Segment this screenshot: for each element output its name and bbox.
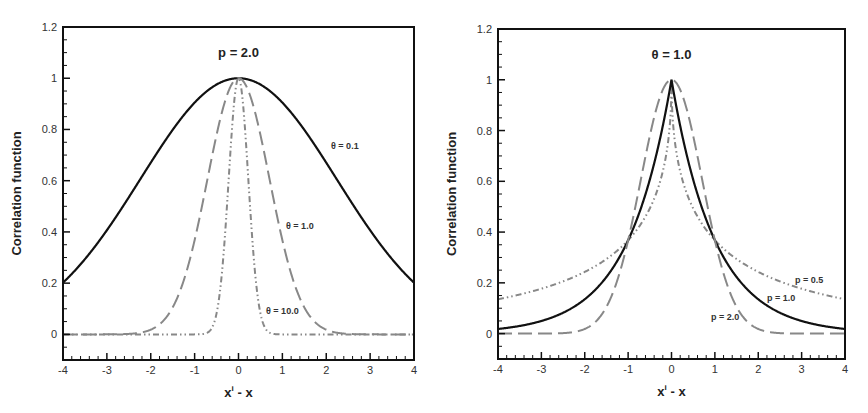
x-tick-label: 2 [755, 363, 761, 375]
plot-frame [63, 27, 414, 360]
x-tick-label: -2 [146, 364, 156, 376]
curve-label: p = 1.0 [767, 293, 795, 303]
x-tick-label: -1 [623, 363, 633, 375]
curve--10.0 [63, 78, 414, 334]
y-tick-label: 0.2 [42, 277, 57, 289]
curve-label: p = 2.0 [711, 312, 739, 322]
y-tick-label: 0.4 [477, 226, 492, 238]
y-tick-label: 1 [486, 74, 492, 86]
x-tick-label: -2 [580, 363, 590, 375]
x-axis-label: xi - x [224, 384, 253, 400]
y-tick-label: 0.6 [477, 175, 492, 187]
x-tick-label: -4 [493, 363, 503, 375]
x-tick-label: -3 [102, 364, 112, 376]
curve--0.1 [63, 78, 414, 282]
y-tick-label: 0.8 [477, 125, 492, 137]
x-tick-label: 2 [323, 364, 329, 376]
curves [63, 78, 414, 334]
y-tick-label: 0.2 [477, 277, 492, 289]
y-axis-label: Correlation function [9, 131, 24, 255]
right-panel-theta1: -4-3-2-10123400.20.40.60.811.2 θ = 1.0 C… [444, 23, 848, 399]
curve-label: θ = 0.1 [331, 141, 359, 151]
y-tick-label: 1.2 [42, 21, 57, 33]
y-tick-label: 0.8 [42, 123, 57, 135]
y-tick-label: 0.6 [42, 175, 57, 187]
axis-ticks: -4-3-2-10123400.20.40.60.811.2 [477, 23, 848, 375]
panel-title: θ = 1.0 [652, 47, 692, 62]
curve-label: θ = 10.0 [266, 306, 299, 316]
y-tick-label: 0 [486, 328, 492, 340]
curve-label: θ = 1.0 [286, 221, 314, 231]
x-tick-label: 0 [235, 364, 241, 376]
y-tick-label: 0 [51, 328, 57, 340]
curve--1.0 [63, 78, 414, 334]
x-tick-label: 3 [367, 364, 373, 376]
x-tick-label: -3 [536, 363, 546, 375]
x-tick-label: 0 [668, 363, 674, 375]
y-tick-label: 1 [51, 72, 57, 84]
x-tick-label: 1 [712, 363, 718, 375]
y-tick-label: 0.4 [42, 226, 57, 238]
x-tick-label: 4 [842, 363, 848, 375]
x-tick-label: -1 [190, 364, 200, 376]
x-tick-label: -4 [58, 364, 68, 376]
y-axis-label: Correlation function [444, 132, 459, 256]
curve-p-1.0 [498, 80, 845, 329]
y-tick-label: 1.2 [477, 23, 492, 35]
curve-p-0.5 [498, 80, 845, 299]
left-panel-p2: -4-3-2-10123400.20.40.60.811.2 p = 2.0 C… [9, 21, 417, 400]
x-tick-label: 4 [411, 364, 417, 376]
figure: -4-3-2-10123400.20.40.60.811.2 p = 2.0 C… [0, 0, 868, 413]
axis-ticks: -4-3-2-10123400.20.40.60.811.2 [42, 21, 417, 376]
curve-label: p = 0.5 [795, 275, 823, 285]
curve-labels: p = 0.5p = 1.0p = 2.0 [711, 275, 823, 322]
x-axis-label: xi - x [657, 383, 686, 399]
x-tick-label: 3 [799, 363, 805, 375]
curve-labels: θ = 0.1θ = 1.0θ = 10.0 [266, 141, 359, 316]
plot-frame [498, 29, 845, 359]
x-tick-label: 1 [279, 364, 285, 376]
panel-title: p = 2.0 [218, 45, 259, 60]
